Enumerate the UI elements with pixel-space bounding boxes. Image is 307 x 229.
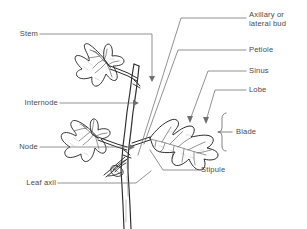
label-lobe: Lobe [249,85,267,94]
label-petiole: Petiole [249,45,273,54]
label-blade: Blade [236,127,256,136]
label-axillary-bud-line1: Axillary or [249,10,284,19]
arrow-lobe [203,117,209,124]
leader-lines [0,0,307,229]
leader-stem [40,34,152,80]
leader-stipule [150,150,198,170]
diagram-canvas: Stem Internode Node Leaf axil Axillary o… [0,0,307,229]
leader-lobe [206,90,246,121]
arrow-sinus [187,116,193,123]
label-axillary-bud: Axillary or lateral bud [249,10,286,28]
label-stem: Stem [0,29,38,38]
label-node: Node [0,142,38,151]
label-leaf-axil: Leaf axil [0,178,56,187]
leader-petiole [144,50,246,144]
arrow-node [129,144,135,150]
arrow-stem [149,76,155,82]
arrow-internode [133,100,139,106]
label-sinus: Sinus [249,66,269,75]
label-internode: Internode [0,98,58,107]
label-axillary-bud-line2: lateral bud [249,19,286,28]
leader-axillary-bud [138,18,246,155]
leader-leaf-axil [58,171,151,183]
blade-brace [218,113,232,151]
label-stipule: Stipule [201,165,225,174]
leader-sinus [190,71,246,120]
